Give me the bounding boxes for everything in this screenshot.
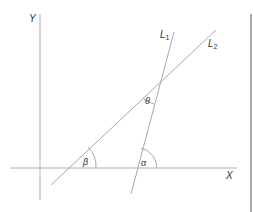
beta-arc xyxy=(88,147,96,168)
line-l1 xyxy=(131,32,174,194)
l2-label: L2 xyxy=(208,38,218,50)
line-l2 xyxy=(51,30,216,185)
alpha-label: α xyxy=(141,158,147,168)
y-axis-label: Y xyxy=(29,13,37,24)
beta-label: β xyxy=(82,157,88,167)
x-axis-label: X xyxy=(225,170,233,181)
l2-label-sub: 2 xyxy=(214,43,218,50)
l1-label: L1 xyxy=(160,29,170,41)
theta-label: θ xyxy=(145,96,150,106)
diagram-canvas: Y X L1 L2 θ β α xyxy=(0,0,253,212)
l1-label-sub: 1 xyxy=(166,34,170,41)
